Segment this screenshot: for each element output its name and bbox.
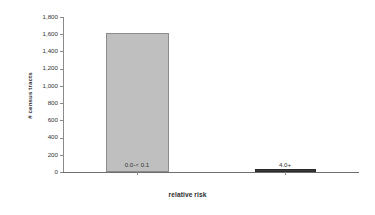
y-axis-tick-mark: [60, 103, 63, 104]
y-axis-tick-mark: [60, 17, 63, 18]
y-axis-tick-label: 1,600: [24, 31, 58, 37]
bar: [106, 33, 169, 172]
y-axis-tick-label: 1,400: [24, 48, 58, 54]
y-axis-tick-label: 1,800: [24, 14, 58, 20]
x-axis-tick-mark: [137, 172, 138, 175]
x-axis-title: relative risk: [0, 191, 375, 198]
y-axis-tick-mark: [60, 51, 63, 52]
y-axis-tick-label: 800: [24, 100, 58, 106]
x-axis-tick-label: 0.0-< 0.1: [125, 161, 150, 168]
y-axis-tick-mark: [60, 69, 63, 70]
y-axis-tick-mark: [60, 120, 63, 121]
y-axis-tick-mark: [60, 34, 63, 35]
y-axis-tick-mark: [60, 155, 63, 156]
y-axis-tick-label: 0: [24, 169, 58, 175]
y-axis-tick-label: 600: [24, 117, 58, 123]
y-axis-tick-label: 400: [24, 134, 58, 140]
y-axis-tick-mark: [60, 172, 63, 173]
y-axis-tick-mark: [60, 86, 63, 87]
y-axis-tick-label: 1,200: [24, 65, 58, 71]
bar: [255, 169, 316, 172]
x-axis-line: [63, 172, 359, 173]
y-axis-line: [63, 17, 64, 172]
y-axis-tick-labels: 02004006008001,0001,2001,4001,6001,800: [22, 0, 58, 215]
y-axis-tick-label: 200: [24, 152, 58, 158]
plot-area: [63, 17, 359, 172]
y-axis-tick-mark: [60, 138, 63, 139]
x-axis-tick-label: 4.0+: [279, 161, 291, 168]
bar-chart: # census tracts 02004006008001,0001,2001…: [0, 0, 375, 215]
y-axis-tick-label: 1,000: [24, 83, 58, 89]
x-axis-tick-mark: [285, 172, 286, 175]
